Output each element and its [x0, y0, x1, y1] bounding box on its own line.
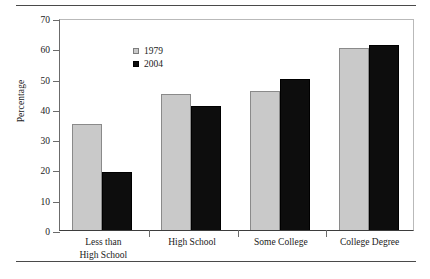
chart-legend: 1979 2004	[133, 44, 163, 70]
y-axis-tick: 20	[53, 171, 60, 172]
y-axis-tick-label: 50	[41, 76, 51, 86]
y-axis-tick-label: 40	[41, 106, 51, 116]
bar-2004-0	[102, 172, 132, 230]
y-axis-tick: 30	[53, 141, 60, 142]
y-axis-tick-label: 20	[41, 166, 51, 176]
bottom-horizontal-rule	[16, 261, 416, 262]
x-axis-category-label: Some College	[237, 236, 326, 249]
legend-swatch-1979-icon	[133, 48, 139, 54]
plot-area: 010203040506070 1979 2004	[59, 19, 414, 231]
legend-entry-1979: 1979	[133, 44, 163, 57]
top-horizontal-rule	[16, 5, 416, 6]
bar-1979-2	[250, 91, 280, 230]
y-axis-title: Percentage	[16, 46, 26, 156]
y-axis-tick-label: 30	[41, 136, 51, 146]
y-axis-tick: 60	[53, 50, 60, 51]
bar-2004-2	[280, 79, 310, 230]
y-axis-tick-label: 10	[41, 197, 51, 207]
y-axis-tick-label: 0	[45, 227, 50, 237]
bar-2004-1	[191, 106, 221, 230]
bar-chart-figure: Percentage 010203040506070 1979 2004 Les…	[0, 0, 430, 279]
legend-swatch-2004-icon	[133, 61, 139, 67]
y-axis-tick: 0	[53, 232, 60, 233]
bar-1979-0	[72, 124, 102, 230]
bar-2004-3	[369, 45, 399, 230]
y-axis-tick: 10	[53, 202, 60, 203]
x-axis-category-label: Less than High School	[59, 236, 148, 261]
bar-1979-3	[339, 48, 369, 230]
legend-label-2004: 2004	[144, 59, 163, 69]
bar-1979-1	[161, 94, 191, 230]
y-axis-tick-label: 70	[41, 15, 51, 25]
y-axis-tick: 40	[53, 111, 60, 112]
y-axis-tick: 70	[53, 20, 60, 21]
y-axis-tick: 50	[53, 81, 60, 82]
x-axis-category-label: High School	[148, 236, 237, 249]
legend-entry-2004: 2004	[133, 57, 163, 70]
x-axis-category-label: College Degree	[325, 236, 414, 249]
legend-label-1979: 1979	[144, 46, 163, 56]
y-axis-tick-label: 60	[41, 45, 51, 55]
